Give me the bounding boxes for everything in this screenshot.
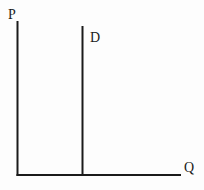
price-axis-label: P <box>8 8 16 22</box>
diagram-canvas <box>0 0 204 190</box>
demand-curve-label: D <box>90 31 100 45</box>
quantity-axis-label: Q <box>184 161 194 175</box>
economics-diagram: P D Q <box>0 0 204 190</box>
